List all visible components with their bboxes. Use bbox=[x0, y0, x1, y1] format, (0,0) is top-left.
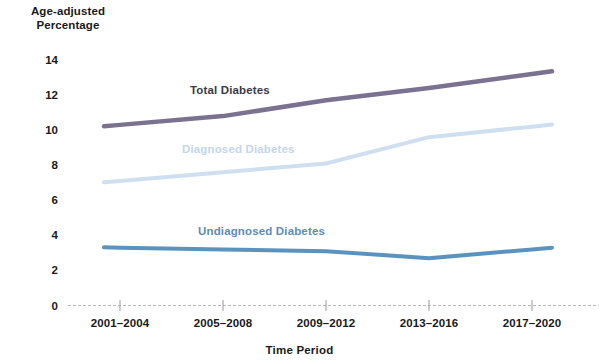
y-tick-label-10: 10 bbox=[28, 124, 58, 136]
x-axis-title: Time Period bbox=[0, 344, 599, 356]
series-label-diagnosed-diabetes: Diagnosed Diabetes bbox=[182, 143, 295, 155]
x-tick-label-2: 2009–2012 bbox=[271, 317, 381, 330]
y-tick-label-2: 2 bbox=[28, 264, 58, 276]
y-tick-label-4: 4 bbox=[28, 229, 58, 241]
chart-plot-area bbox=[0, 0, 599, 364]
y-tick-label-14: 14 bbox=[28, 54, 58, 66]
y-tick-label-8: 8 bbox=[28, 159, 58, 171]
y-tick-label-12: 12 bbox=[28, 89, 58, 101]
x-tick-label-4: 2017–2020 bbox=[477, 317, 587, 330]
x-tick-label-0: 2001–2004 bbox=[65, 317, 175, 330]
series-label-total-diabetes: Total Diabetes bbox=[190, 84, 270, 96]
series-lines bbox=[104, 71, 552, 258]
line-total-diabetes bbox=[104, 71, 552, 126]
y-tick-label-0: 0 bbox=[28, 300, 58, 312]
diabetes-prevalence-line-chart: Age-adjusted Percentage 02468101214 2001… bbox=[0, 0, 599, 364]
x-axis bbox=[68, 300, 599, 311]
line-undiagnosed-diabetes bbox=[104, 247, 552, 258]
line-diagnosed-diabetes bbox=[104, 125, 552, 183]
y-tick-label-6: 6 bbox=[28, 194, 58, 206]
x-tick-label-3: 2013–2016 bbox=[374, 317, 484, 330]
x-tick-label-1: 2005–2008 bbox=[168, 317, 278, 330]
series-label-undiagnosed-diabetes: Undiagnosed Diabetes bbox=[198, 225, 325, 237]
